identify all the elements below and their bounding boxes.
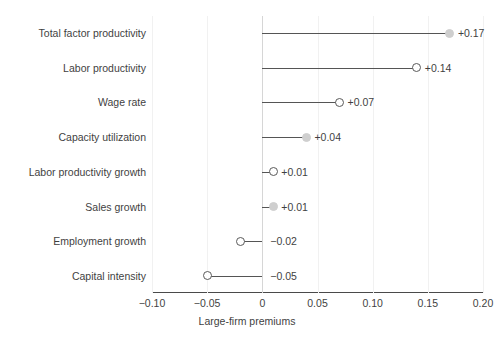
value-label: +0.01 <box>281 199 308 215</box>
x-tick-label-3: 0.05 <box>307 296 327 310</box>
category-label: Sales growth <box>0 199 146 215</box>
x-tick-label-2: 0 <box>259 296 265 310</box>
gridline-5 <box>428 16 429 293</box>
gridline-6 <box>483 16 484 293</box>
x-axis-title: Large-firm premiums <box>0 314 494 328</box>
x-tick-label-4: 0.10 <box>362 296 382 310</box>
stem-line <box>262 33 450 34</box>
stem-line <box>207 276 262 277</box>
stem-line <box>262 102 339 103</box>
gridline-3 <box>318 16 319 293</box>
value-label: +0.01 <box>281 164 308 180</box>
category-label: Capital intensity <box>0 268 146 284</box>
value-label: +0.17 <box>458 25 485 41</box>
x-tick-label-0: −0.10 <box>139 296 166 310</box>
x-tick-label-6: 0.20 <box>473 296 493 310</box>
category-label: Labor productivity growth <box>0 164 146 180</box>
plot-area: Total factor productivity+0.17Labor prod… <box>0 0 494 339</box>
gridline-1 <box>207 16 208 293</box>
value-label: +0.07 <box>348 94 375 110</box>
value-label: −0.02 <box>270 233 297 249</box>
data-point-marker[interactable] <box>203 271 212 280</box>
chart-figure: Total factor productivity+0.17Labor prod… <box>0 0 494 339</box>
category-label: Employment growth <box>0 233 146 249</box>
x-tick-label-1: −0.05 <box>194 296 221 310</box>
category-label: Labor productivity <box>0 60 146 76</box>
data-point-marker[interactable] <box>335 98 344 107</box>
zero-reference-line <box>262 16 263 293</box>
x-tick-label-5: 0.15 <box>418 296 438 310</box>
stem-line <box>262 137 306 138</box>
data-point-marker[interactable] <box>236 237 245 246</box>
gridline-4 <box>373 16 374 293</box>
value-label: +0.04 <box>314 129 341 145</box>
stem-line <box>262 68 416 69</box>
data-point-marker[interactable] <box>412 63 421 72</box>
value-label: +0.14 <box>425 60 452 76</box>
value-label: −0.05 <box>270 268 297 284</box>
category-label: Total factor productivity <box>0 25 146 41</box>
gridline-0 <box>152 16 153 293</box>
category-label: Wage rate <box>0 94 146 110</box>
data-point-marker[interactable] <box>445 29 454 38</box>
data-point-marker[interactable] <box>302 133 311 142</box>
category-label: Capacity utilization <box>0 129 146 145</box>
data-point-marker[interactable] <box>269 167 278 176</box>
data-point-marker[interactable] <box>269 202 278 211</box>
